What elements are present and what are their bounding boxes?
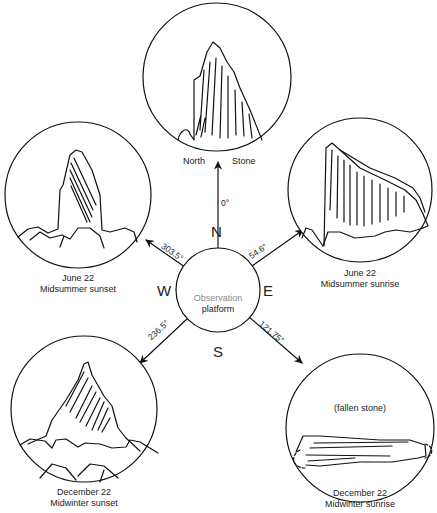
north-label: North xyxy=(183,156,205,167)
compass-n: N xyxy=(211,223,222,240)
compass-w: W xyxy=(157,282,171,299)
midwinter-sunset-view xyxy=(11,336,158,482)
north-stone-view xyxy=(143,3,291,151)
observation-platform-circle xyxy=(176,248,260,332)
observation-label: Observation xyxy=(180,293,256,304)
midwinter-sunset-event: Midwinter sunset xyxy=(34,498,134,509)
midwinter-sunrise-view xyxy=(286,354,434,502)
midwinter-sunrise-date: December 22 xyxy=(320,488,400,499)
midsummer-sunset-view xyxy=(5,122,151,268)
platform-label: platform xyxy=(180,304,256,315)
bearing-north: 0° xyxy=(221,198,229,208)
compass-e: E xyxy=(263,282,273,299)
stone-label: Stone xyxy=(232,156,256,167)
midsummer-sunrise-view xyxy=(288,118,432,262)
midwinter-sunset-date: December 22 xyxy=(44,487,124,498)
compass-s: S xyxy=(213,343,223,360)
diagram-canvas xyxy=(0,0,437,513)
midwinter-sunrise-event: Midwinter sunrise xyxy=(310,499,410,510)
midsummer-sunset-date: June 22 xyxy=(38,273,118,284)
fallen-stone-note: (fallen stone) xyxy=(325,403,395,414)
midsummer-sunrise-event: Midsummer sunrise xyxy=(310,279,410,290)
midsummer-sunrise-date: June 22 xyxy=(320,268,400,279)
midsummer-sunset-event: Midsummer sunset xyxy=(28,284,128,295)
